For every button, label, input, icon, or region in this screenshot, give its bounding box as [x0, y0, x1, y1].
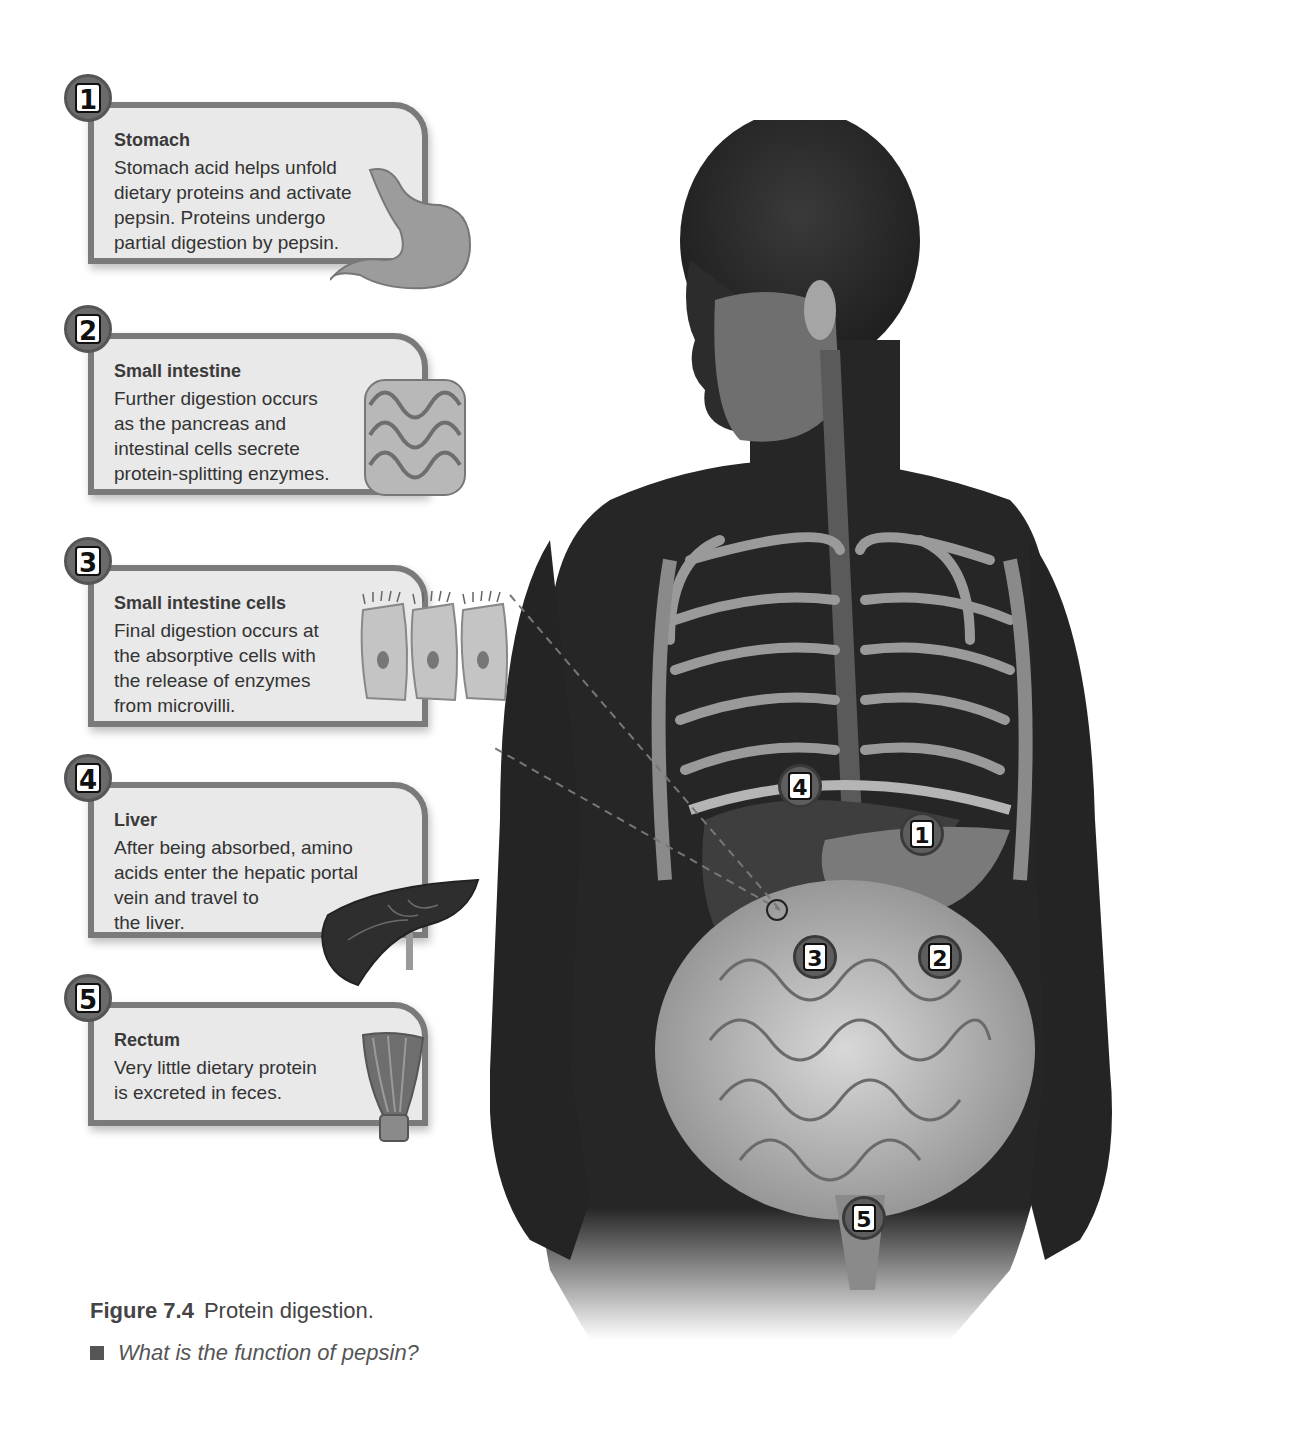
body-marker-rectum: 5 [842, 1196, 886, 1240]
figure-label: Figure 7.4 [90, 1298, 194, 1323]
liver-icon [318, 875, 483, 990]
stomach-icon [330, 160, 480, 295]
square-bullet-icon [90, 1346, 104, 1360]
human-body-illustration: 1 2 3 4 5 [490, 120, 1290, 1441]
callout-title: Liver [114, 810, 404, 831]
step-number-badge: 4 [64, 754, 112, 802]
absorptive-cells-icon [355, 590, 515, 705]
rectum-icon [358, 1030, 428, 1150]
step-number-badge: 3 [64, 537, 112, 585]
small-intestine-icon [360, 375, 470, 500]
body-marker-small-intestine-cells: 3 [793, 935, 837, 979]
body-marker-stomach: 1 [900, 812, 944, 856]
question-text: What is the function of pepsin? [118, 1340, 419, 1366]
step-number-badge: 1 [64, 74, 112, 122]
figure-title-line: Figure 7.4Protein digestion. [90, 1298, 419, 1324]
body-marker-small-intestine: 2 [918, 935, 962, 979]
callout-title: Stomach [114, 130, 404, 151]
figure-caption: Figure 7.4Protein digestion. What is the… [90, 1298, 419, 1366]
figure-title: Protein digestion. [204, 1298, 374, 1323]
step-number-badge: 5 [64, 974, 112, 1022]
body-marker-liver: 4 [778, 764, 822, 808]
step-number-badge: 2 [64, 305, 112, 353]
figure-question: What is the function of pepsin? [90, 1340, 419, 1366]
